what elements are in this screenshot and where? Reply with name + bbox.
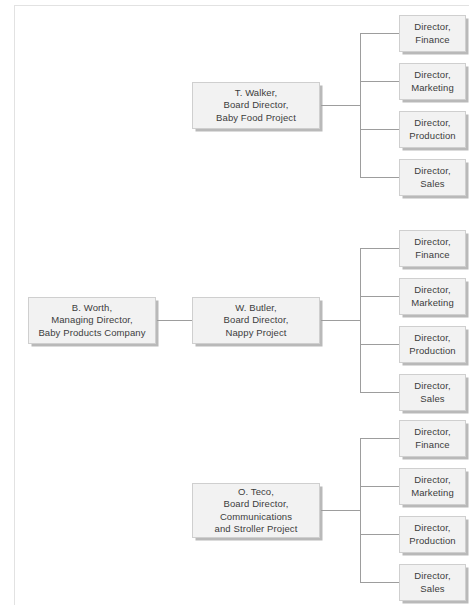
stub-baby-food-finance [360, 33, 400, 34]
org-node-leaf-communications-stroller-sales[interactable]: Director, Sales [399, 564, 466, 601]
connector-nappy-to-spine [321, 320, 360, 321]
stub-communications-stroller-marketing [360, 486, 400, 487]
org-node-leaf-nappy-sales[interactable]: Director, Sales [399, 374, 466, 411]
org-node-leaf-communications-stroller-marketing[interactable]: Director, Marketing [399, 468, 466, 505]
stub-communications-stroller-finance [360, 438, 400, 439]
page-border-top [14, 5, 469, 6]
org-node-leaf-communications-stroller-finance[interactable]: Director, Finance [399, 420, 466, 457]
spine-nappy [360, 248, 361, 392]
org-node-leaf-nappy-production[interactable]: Director, Production [399, 326, 466, 363]
org-node-branch-baby-food[interactable]: T. Walker, Board Director, Baby Food Pro… [192, 82, 320, 129]
stub-baby-food-production [360, 129, 400, 130]
spine-baby-food [360, 33, 361, 177]
connector-root-to-nappy [157, 320, 192, 321]
connector-baby-food-to-spine [321, 105, 360, 106]
org-node-root[interactable]: B. Worth, Managing Director, Baby Produc… [28, 297, 156, 344]
stub-nappy-sales [360, 392, 400, 393]
stub-baby-food-marketing [360, 81, 400, 82]
org-node-branch-communications-stroller[interactable]: O. Teco, Board Director, Communications … [192, 483, 320, 538]
page-border-left [14, 6, 15, 605]
stub-communications-stroller-production [360, 534, 400, 535]
org-node-leaf-baby-food-marketing[interactable]: Director, Marketing [399, 63, 466, 100]
org-node-leaf-nappy-marketing[interactable]: Director, Marketing [399, 278, 466, 315]
org-node-leaf-nappy-finance[interactable]: Director, Finance [399, 230, 466, 267]
stub-baby-food-sales [360, 177, 400, 178]
stub-nappy-marketing [360, 296, 400, 297]
org-node-leaf-baby-food-production[interactable]: Director, Production [399, 111, 466, 148]
org-chart-canvas: B. Worth, Managing Director, Baby Produc… [0, 0, 474, 615]
org-node-leaf-baby-food-finance[interactable]: Director, Finance [399, 15, 466, 52]
org-node-leaf-communications-stroller-production[interactable]: Director, Production [399, 516, 466, 553]
stub-communications-stroller-sales [360, 582, 400, 583]
stub-nappy-production [360, 344, 400, 345]
stub-nappy-finance [360, 248, 400, 249]
connector-communications-stroller-to-spine [321, 510, 360, 511]
org-node-branch-nappy[interactable]: W. Butler, Board Director, Nappy Project [192, 297, 320, 344]
spine-communications-stroller [360, 438, 361, 582]
org-node-leaf-baby-food-sales[interactable]: Director, Sales [399, 159, 466, 196]
